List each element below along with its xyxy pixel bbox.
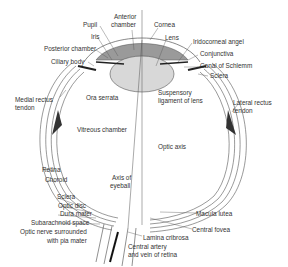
label-iridocorneal-angle: Iridocorneal angel <box>193 38 244 45</box>
label-optic-nerve: Optic nerve surrounded <box>20 228 87 235</box>
label-dura-mater: Dura mater <box>60 210 92 217</box>
label-suspensory-ligament-2: ligament of lens <box>158 97 203 104</box>
label-sclera-top: Sclera <box>210 72 228 79</box>
label-anterior-chamber-2: chamber <box>111 21 136 28</box>
label-lamina-cribrosa: Lamina cribrosa <box>143 234 188 241</box>
label-macula-lutea: Macula lutea <box>196 210 232 217</box>
label-vitreous-chamber: Vitreous chamber <box>77 126 127 133</box>
label-optic-axis: Optic axis <box>158 143 186 150</box>
label-medial-rectus-2: tendon <box>15 104 35 111</box>
label-central-artery: Central artery <box>128 243 167 250</box>
eye-anatomy-diagram <box>0 0 288 267</box>
label-axis-of-eyeball-2: eyeball <box>110 182 130 189</box>
label-canal-of-schlemm: Canal of Schlemm <box>200 62 252 69</box>
label-ciliary-body: Ciliary body <box>51 58 84 65</box>
label-pupil: Pupil <box>83 21 97 28</box>
label-central-fovea: Central fovea <box>192 226 230 233</box>
label-choroid: Choroid <box>45 176 67 183</box>
label-sclera-bottom: Sclera <box>57 193 75 200</box>
label-iris: Iris <box>91 33 100 40</box>
label-conjunctiva: Conjunctiva <box>200 50 233 57</box>
label-posterior-chamber: Posterior chamber <box>44 45 96 52</box>
label-lens: Lens <box>165 34 179 41</box>
label-medial-rectus: Medial rectus <box>15 96 53 103</box>
label-ora-serrata: Ora serrata <box>86 94 118 101</box>
label-subarachnoid-space: Subarachnoid space <box>31 219 89 226</box>
label-optic-disc: Optic disc <box>58 202 86 209</box>
label-cornea: Cornea <box>154 21 175 28</box>
label-optic-nerve-2: with pia mater <box>47 237 87 244</box>
label-axis-of-eyeball: Axis of <box>112 174 131 181</box>
label-anterior-chamber: Anterior <box>114 13 136 20</box>
label-lateral-rectus-2: tendon <box>233 107 253 114</box>
label-lateral-rectus: Lateral rectus <box>233 99 272 106</box>
label-retina: Retina <box>42 166 60 173</box>
label-suspensory-ligament: Suspensory <box>158 89 192 96</box>
label-central-artery-2: and vein of retina <box>128 251 177 258</box>
